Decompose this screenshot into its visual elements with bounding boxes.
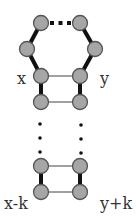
node-y <box>73 69 88 84</box>
ellipsis-dot-left <box>38 150 42 154</box>
loop-dot <box>50 21 54 25</box>
pairing-edges <box>41 76 80 192</box>
node-mid-left <box>20 42 35 57</box>
nodes <box>20 16 103 200</box>
loop-dot <box>67 21 71 25</box>
loop-dotted-edge <box>50 21 71 25</box>
node-x-minus-k-plus-1 <box>34 159 49 174</box>
node-mid-right <box>88 42 103 57</box>
node-y-plus-k <box>73 185 88 200</box>
vertical-ellipsis <box>38 122 83 155</box>
ellipsis-dot-right <box>79 123 83 127</box>
node-y-plus-k-minus-1 <box>73 159 88 174</box>
loop-dot <box>59 21 63 25</box>
label-x: x <box>17 69 26 88</box>
ellipsis-dot-right <box>79 151 83 155</box>
node-top-left <box>34 16 49 31</box>
label-y-plus-k: y+k <box>99 194 132 213</box>
node-x <box>34 69 49 84</box>
node-x-minus-1 <box>34 95 49 110</box>
label-x-minus-k: x-k <box>4 194 28 213</box>
label-y: y <box>99 69 109 88</box>
node-top-right <box>73 16 88 31</box>
hairpin-ladder-diagram: x y x-k y+k <box>0 0 136 219</box>
ellipsis-dot-right <box>79 137 83 141</box>
ellipsis-dot-left <box>38 136 42 140</box>
ellipsis-dot-left <box>38 122 42 126</box>
node-x-minus-k <box>34 185 49 200</box>
node-y-plus-1 <box>73 95 88 110</box>
